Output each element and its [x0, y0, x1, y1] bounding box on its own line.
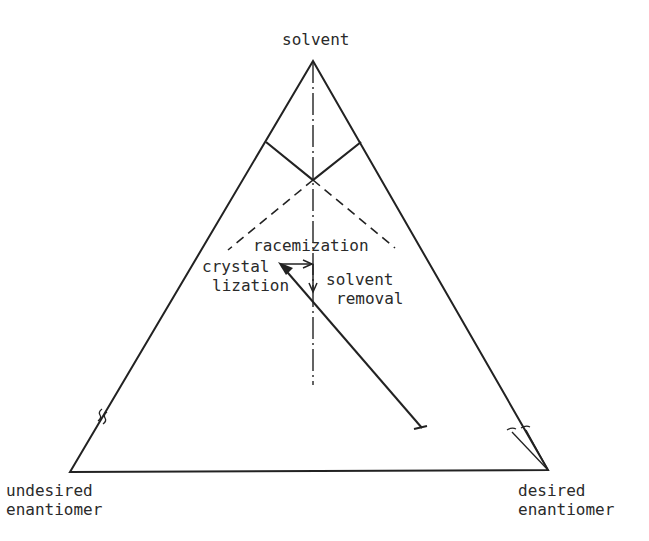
- label-crystallization: crystal lization: [202, 257, 289, 295]
- axis-break-right: [507, 426, 530, 430]
- vertex-label-solvent: solvent: [282, 30, 349, 49]
- label-racemization: racemization: [253, 236, 369, 255]
- vertex-label-undesired: undesired enantiomer: [6, 481, 102, 519]
- ternary-diagram: [0, 0, 649, 541]
- vertex-label-desired: desired enantiomer: [518, 481, 614, 519]
- triangle-outline: [70, 61, 548, 472]
- label-solvent-removal: solvent removal: [326, 270, 403, 308]
